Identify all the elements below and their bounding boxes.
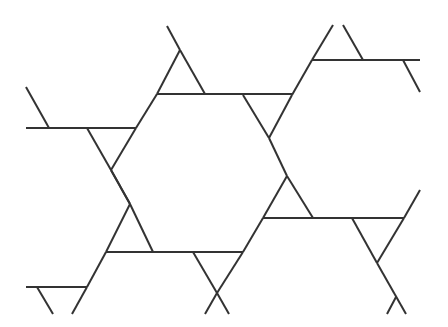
- line-segment: [130, 204, 153, 252]
- line-segment: [403, 60, 420, 92]
- line-segment: [26, 87, 49, 128]
- line-segment: [87, 252, 106, 287]
- line-segment: [111, 170, 130, 204]
- line-segment: [352, 218, 377, 263]
- line-segment: [193, 252, 217, 293]
- hexagon-triangle-tiling-diagram: [0, 0, 448, 327]
- line-segment: [243, 218, 263, 252]
- line-segment: [111, 128, 136, 170]
- line-segment: [37, 287, 53, 314]
- line-segment: [312, 25, 333, 60]
- line-segment: [343, 25, 363, 60]
- line-segment: [377, 218, 404, 263]
- line-segment: [157, 50, 180, 94]
- line-segment: [205, 293, 217, 314]
- line-segment: [387, 297, 396, 314]
- line-segment: [269, 138, 287, 176]
- line-segment: [263, 176, 287, 218]
- line-segment: [72, 287, 87, 314]
- line-segment: [106, 204, 130, 252]
- line-segment: [87, 128, 111, 170]
- line-segment: [269, 95, 292, 138]
- line-segment: [180, 50, 205, 94]
- line-segment: [217, 293, 229, 314]
- line-segment: [136, 94, 157, 128]
- line-segment: [404, 190, 420, 218]
- line-segment: [217, 252, 243, 293]
- line-segment: [167, 26, 180, 50]
- line-segment: [243, 95, 269, 138]
- line-segment: [292, 60, 312, 95]
- line-segment: [287, 176, 313, 218]
